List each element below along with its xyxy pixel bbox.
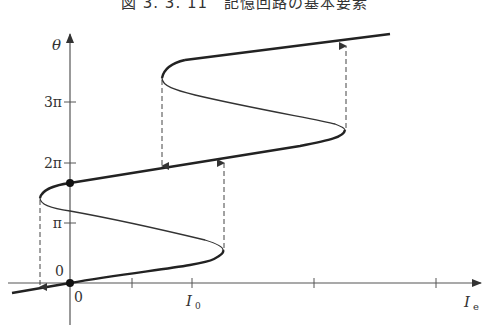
svg-text:I: I <box>463 293 471 311</box>
intercept-point <box>66 179 74 187</box>
svg-text:0: 0 <box>195 301 201 311</box>
x-axis-label: I e <box>463 293 479 312</box>
unstable-lower <box>40 198 223 250</box>
branch-2pi <box>70 130 345 183</box>
branch-lower-fold <box>40 183 70 198</box>
unstable-upper <box>162 78 345 130</box>
svg-text:e: e <box>473 301 479 312</box>
branch-upper-fold <box>162 60 185 78</box>
y-axis-label: θ <box>52 36 61 54</box>
y-tick-2pi: 2π <box>44 155 62 171</box>
hysteresis-diagram: θ 3π 2π π 0 0 I 0 I e <box>0 0 489 331</box>
x-tick-I0-label: I 0 <box>185 292 201 311</box>
x-zero-label: 0 <box>74 289 83 305</box>
y-tick-3pi: 3π <box>44 94 62 110</box>
y-tick-pi: π <box>53 215 62 231</box>
jump-arrows <box>40 46 346 287</box>
y-zero-label: 0 <box>55 263 64 279</box>
svg-text:I: I <box>185 292 193 310</box>
origin-point <box>66 279 74 287</box>
branch-4pi <box>185 34 390 60</box>
